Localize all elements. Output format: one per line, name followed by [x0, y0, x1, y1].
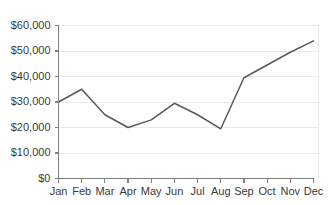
- y-tick-label: $10,000: [11, 146, 51, 158]
- chart-canvas: $0$10,000$20,000$30,000$40,000$50,000$60…: [0, 0, 329, 205]
- x-tick-label: Sep: [234, 185, 254, 197]
- x-tick-label: Oct: [259, 185, 276, 197]
- y-tick-label: $50,000: [11, 44, 51, 56]
- y-tick-label: $40,000: [11, 70, 51, 82]
- y-tick-label: $60,000: [11, 19, 51, 31]
- x-tick-label: Jun: [166, 185, 184, 197]
- y-tick-label: $0: [38, 172, 50, 184]
- x-tick-label: Dec: [304, 185, 324, 197]
- x-tick-label: Apr: [119, 185, 136, 197]
- revenue-line-series: [59, 41, 314, 129]
- y-axis-ticks: $0$10,000$20,000$30,000$40,000$50,000$60…: [11, 19, 59, 184]
- x-tick-label: Nov: [281, 185, 301, 197]
- x-tick-label: Aug: [211, 185, 231, 197]
- x-tick-label: Jan: [50, 185, 68, 197]
- x-tick-label: Feb: [72, 185, 91, 197]
- y-tick-label: $30,000: [11, 95, 51, 107]
- x-tick-label: Jul: [191, 185, 205, 197]
- y-tick-label: $20,000: [11, 121, 51, 133]
- x-axis-ticks: JanFebMarAprMayJunJulAugSepOctNovDec: [50, 179, 324, 197]
- line-chart: $0$10,000$20,000$30,000$40,000$50,000$60…: [0, 0, 329, 205]
- x-tick-label: Mar: [95, 185, 114, 197]
- gridlines: [59, 26, 319, 179]
- plot-area: [59, 41, 314, 129]
- x-tick-label: May: [141, 185, 162, 197]
